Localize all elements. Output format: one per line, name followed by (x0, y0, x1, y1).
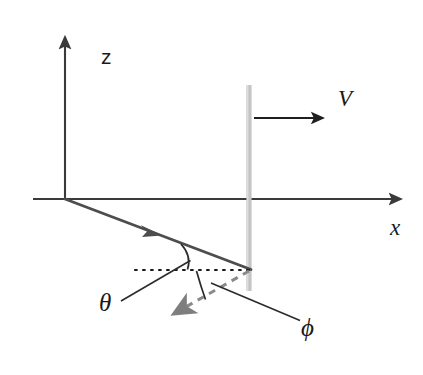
physics-diagram-figure: z x V θ ϕ (0, 0, 423, 375)
axes-group (33, 37, 401, 199)
phi-angle-arc (197, 271, 206, 300)
theta-leader-line (121, 261, 191, 302)
theta-angle-label: θ (99, 289, 111, 316)
scattered-ray-group (176, 271, 249, 313)
velocity-label: V (338, 86, 355, 111)
x-axis-label: x (389, 215, 401, 240)
diagram-canvas: z x V θ ϕ (0, 0, 423, 375)
incident-ray-direction-arrowhead (141, 225, 163, 237)
leader-lines-group (121, 261, 300, 321)
phi-leader-line (211, 283, 300, 321)
phi-angle-label: ϕ (301, 314, 314, 341)
scattered-ray-dashed (176, 271, 249, 313)
moving-boundary-group (248, 85, 249, 291)
z-axis-label: z (101, 45, 112, 68)
incident-ray-group (65, 199, 251, 270)
